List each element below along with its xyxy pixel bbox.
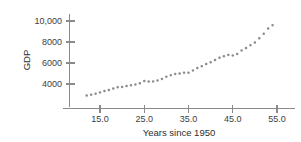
data-point [267,27,270,30]
data-point [258,37,261,40]
data-point [245,47,248,50]
y-axis-tick-labels: 40006000800010,000 [34,16,62,89]
data-point [232,54,235,57]
data-point [236,53,239,56]
data-point [192,69,195,72]
data-point [170,74,173,77]
scatter-data-points [85,24,273,97]
data-point [209,61,212,64]
x-tick-label: 55.0 [268,114,286,124]
data-point [254,41,257,44]
chart-canvas: 40006000800010,000 15.025.035.045.055.0 … [0,0,301,142]
data-point [143,80,146,83]
data-point [161,78,164,81]
y-tick-label: 10,000 [34,16,62,26]
data-point [183,71,186,74]
x-tick-label: 15.0 [91,114,109,124]
x-tick-label: 35.0 [180,114,198,124]
data-point [218,57,221,60]
data-point [121,86,124,89]
data-point [90,93,93,96]
x-axis-title: Years since 1950 [143,127,216,138]
data-point [125,85,128,88]
data-point [99,91,102,94]
data-point [134,83,137,86]
data-point [116,86,119,89]
data-point [85,94,88,97]
data-point [205,63,208,66]
x-tick-label: 25.0 [135,114,153,124]
data-point [94,92,97,95]
y-tick-label: 4000 [42,79,62,89]
data-point [262,33,265,36]
x-axis-tick-labels: 15.025.035.045.055.0 [91,114,286,124]
data-point [249,44,252,47]
data-point [147,80,150,83]
data-point [223,55,226,58]
data-point [240,49,243,52]
data-point [139,82,142,85]
x-tick-label: 45.0 [224,114,242,124]
data-point [156,79,159,82]
gdp-scatter-figure: 40006000800010,000 15.025.035.045.055.0 … [0,0,301,142]
y-tick-label: 6000 [42,58,62,68]
data-point [174,73,177,76]
data-point [271,24,274,27]
data-point [112,87,115,90]
data-point [187,71,190,74]
y-tick-label: 8000 [42,37,62,47]
data-point [108,89,111,92]
data-point [103,90,106,93]
data-point [152,80,155,83]
data-point [130,84,133,87]
data-point [227,54,230,57]
data-point [196,67,199,70]
data-point [214,59,217,62]
data-point [201,65,204,68]
data-point [178,72,181,75]
y-axis-title: GDP [21,50,32,71]
data-point [165,75,168,78]
